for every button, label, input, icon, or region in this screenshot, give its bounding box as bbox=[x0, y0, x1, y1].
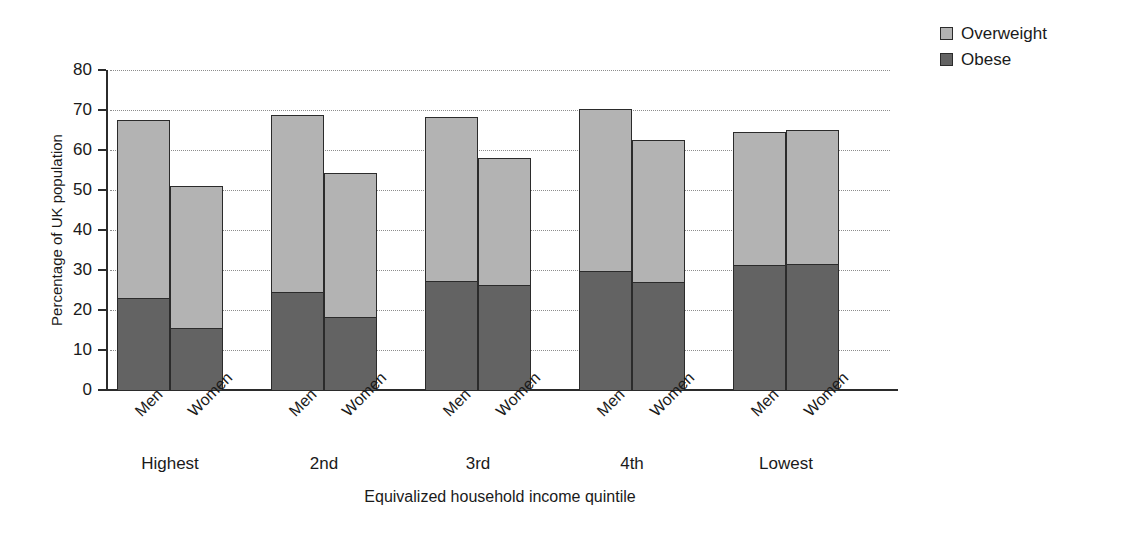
bar-segment-obese bbox=[271, 292, 324, 390]
y-axis-tick-label: 40 bbox=[48, 221, 92, 238]
legend-label-obese: Obese bbox=[961, 51, 1011, 68]
y-axis-tick bbox=[98, 109, 106, 111]
x-axis-group-label: Highest bbox=[100, 455, 240, 472]
x-axis-sub-label: Men bbox=[749, 386, 782, 419]
y-axis-tick-label: 70 bbox=[48, 101, 92, 118]
y-axis-tick bbox=[98, 349, 106, 351]
y-axis-tick bbox=[98, 189, 106, 191]
y-axis-tick bbox=[98, 149, 106, 151]
legend-label-overweight: Overweight bbox=[961, 25, 1047, 42]
x-axis-sub-label: Men bbox=[595, 386, 628, 419]
bar-2nd-men bbox=[271, 115, 324, 390]
y-axis-line bbox=[106, 70, 108, 391]
x-axis-sub-label: Men bbox=[441, 386, 474, 419]
bar-3rd-women bbox=[478, 158, 531, 390]
x-axis-group-label: 2nd bbox=[254, 455, 394, 472]
legend-item-overweight: Overweight bbox=[940, 22, 1120, 44]
y-axis-tick-label: 50 bbox=[48, 181, 92, 198]
y-axis-tick-label: 20 bbox=[48, 301, 92, 318]
bar-chart: Overweight Obese Percentage of UK popula… bbox=[0, 0, 1126, 533]
x-axis-title: Equivalized household income quintile bbox=[110, 488, 890, 506]
legend-item-obese: Obese bbox=[940, 48, 1120, 70]
y-axis-tick-label: 30 bbox=[48, 261, 92, 278]
legend-swatch-obese bbox=[940, 53, 953, 66]
bar-segment-obese bbox=[733, 265, 786, 390]
bar-segment-obese bbox=[117, 298, 170, 390]
y-axis-tick bbox=[98, 269, 106, 271]
y-axis-tick bbox=[98, 309, 106, 311]
chart-legend: Overweight Obese bbox=[940, 22, 1120, 74]
bar-highest-women bbox=[170, 186, 223, 390]
bar-4th-women bbox=[632, 140, 685, 390]
bar-segment-obese bbox=[425, 281, 478, 390]
x-axis-sub-label: Men bbox=[133, 386, 166, 419]
y-axis-tick-label: 80 bbox=[48, 61, 92, 78]
y-axis-tick bbox=[98, 389, 106, 391]
plot-area: 01020304050607080 bbox=[110, 70, 890, 390]
bar-highest-men bbox=[117, 120, 170, 390]
legend-swatch-overweight bbox=[940, 27, 953, 40]
bar-lowest-women bbox=[786, 130, 839, 390]
bar-4th-men bbox=[579, 109, 632, 390]
y-axis-tick-label: 60 bbox=[48, 141, 92, 158]
y-axis-tick bbox=[98, 69, 106, 71]
bar-3rd-men bbox=[425, 117, 478, 390]
bar-lowest-men bbox=[733, 132, 786, 390]
bar-segment-obese bbox=[632, 282, 685, 390]
gridline bbox=[110, 110, 890, 111]
y-axis-tick-label: 0 bbox=[48, 381, 92, 398]
bar-2nd-women bbox=[324, 173, 377, 390]
x-axis-group-label: Lowest bbox=[716, 455, 856, 472]
gridline bbox=[110, 70, 890, 71]
y-axis-tick-label: 10 bbox=[48, 341, 92, 358]
x-axis-sub-label: Men bbox=[287, 386, 320, 419]
x-axis-group-label: 4th bbox=[562, 455, 702, 472]
bar-segment-obese bbox=[478, 285, 531, 390]
bar-segment-obese bbox=[579, 271, 632, 390]
x-axis-group-label: 3rd bbox=[408, 455, 548, 472]
y-axis-tick bbox=[98, 229, 106, 231]
bar-segment-obese bbox=[786, 264, 839, 390]
